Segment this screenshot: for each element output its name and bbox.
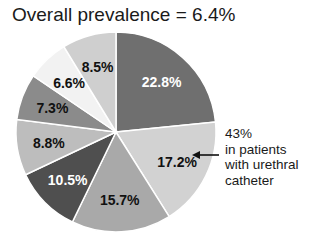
slice-label: 7.3% xyxy=(36,100,68,116)
slice-label: 22.8% xyxy=(142,74,182,90)
slice-label: 17.2% xyxy=(157,154,197,170)
annotation-line: catheter xyxy=(225,173,299,189)
slice-label: 15.7% xyxy=(100,192,140,208)
slice-label: 6.6% xyxy=(53,75,85,91)
slice-label: 8.8% xyxy=(33,135,65,151)
annotation-line: in patients xyxy=(225,142,299,158)
annotation-line: with urethral xyxy=(225,157,299,173)
pie-chart: 22.8%17.2%15.7%10.5%8.8%7.3%6.6%8.5% xyxy=(0,0,320,248)
annotation-line: 43% xyxy=(225,126,299,142)
annotation-note: 43% in patients with urethral catheter xyxy=(225,126,299,188)
slice-label: 10.5% xyxy=(48,172,88,188)
slice-label: 8.5% xyxy=(82,59,114,75)
